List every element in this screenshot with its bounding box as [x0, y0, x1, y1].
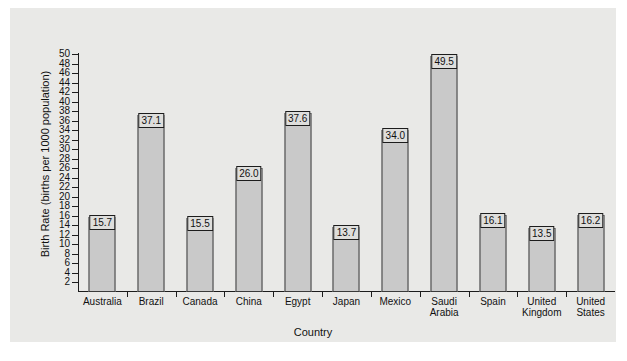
x-tick-label: China — [224, 296, 273, 307]
y-tick-label: 26 — [50, 163, 70, 173]
x-tick-label: Brazil — [127, 296, 176, 307]
x-tick-mark — [322, 292, 323, 297]
y-tick-label: 18 — [50, 201, 70, 211]
y-tick-label: 20 — [50, 192, 70, 202]
x-tick-mark — [176, 292, 177, 297]
y-tick-label: 30 — [50, 144, 70, 154]
x-tick-label: UnitedStates — [566, 296, 615, 318]
y-tick-label: 10 — [50, 239, 70, 249]
bar-value-label: 16.1 — [480, 213, 505, 228]
bar[interactable] — [138, 115, 165, 292]
bar[interactable] — [382, 130, 409, 292]
bar-value-label: 16.2 — [578, 213, 603, 228]
bar[interactable] — [284, 113, 311, 292]
bar-slot: 13.7 — [322, 53, 371, 292]
y-axis-tick-labels: 2468101214161820222426283032343638404244… — [48, 8, 70, 342]
x-tick-mark — [420, 292, 421, 297]
bar-slot: 49.5 — [420, 53, 469, 292]
x-tick-mark — [566, 292, 567, 297]
x-tick-label: UnitedKingdom — [517, 296, 566, 318]
x-tick-label: Spain — [469, 296, 518, 307]
bar-slot: 13.5 — [517, 53, 566, 292]
y-tick-label: 16 — [50, 211, 70, 221]
y-tick-label: 4 — [50, 268, 70, 278]
y-tick-label: 22 — [50, 182, 70, 192]
y-tick-label: 2 — [50, 277, 70, 287]
y-tick-label: 28 — [50, 154, 70, 164]
bar-slot: 15.5 — [176, 53, 225, 292]
y-tick-label: 32 — [50, 135, 70, 145]
bar-slot: 37.1 — [127, 53, 176, 292]
y-tick-label: 6 — [50, 258, 70, 268]
x-tick-mark — [517, 292, 518, 297]
bar-value-label: 37.1 — [138, 113, 163, 128]
x-tick-mark — [469, 292, 470, 297]
bar-slot: 26.0 — [224, 53, 273, 292]
y-tick-label: 24 — [50, 173, 70, 183]
y-tick-label: 42 — [50, 87, 70, 97]
x-tick-mark — [273, 292, 274, 297]
bar[interactable] — [235, 168, 262, 292]
y-tick-label: 14 — [50, 220, 70, 230]
bar-value-label: 49.5 — [431, 54, 456, 69]
x-tick-label: Australia — [78, 296, 127, 307]
bar-slot: 34.0 — [371, 53, 420, 292]
chart-figure: Birth Rate (births per 1000 population) … — [0, 0, 627, 361]
x-tick-label: SaudiArabia — [420, 296, 469, 318]
y-tick-label: 48 — [50, 59, 70, 69]
y-tick-label: 12 — [50, 230, 70, 240]
plot-area: 15.737.115.526.037.613.734.049.516.113.5… — [78, 53, 615, 292]
bar-slot: 37.6 — [273, 53, 322, 292]
bar-slot: 16.1 — [469, 53, 518, 292]
bar-slot: 16.2 — [566, 53, 615, 292]
y-tick-label: 34 — [50, 125, 70, 135]
bar-value-label: 13.5 — [529, 226, 554, 241]
y-tick-label: 40 — [50, 97, 70, 107]
y-tick-label: 38 — [50, 106, 70, 116]
bar-value-label: 15.5 — [187, 216, 212, 231]
bar-value-label: 13.7 — [334, 225, 359, 240]
x-tick-label: Mexico — [371, 296, 420, 307]
bar-slot: 15.7 — [78, 53, 127, 292]
x-tick-label: Egypt — [273, 296, 322, 307]
bar-value-label: 34.0 — [383, 128, 408, 143]
x-tick-label: Canada — [176, 296, 225, 307]
y-tick-label: 36 — [50, 116, 70, 126]
y-tick-label: 46 — [50, 68, 70, 78]
bar-value-label: 37.6 — [285, 111, 310, 126]
bar-value-label: 26.0 — [236, 166, 261, 181]
x-tick-label: Japan — [322, 296, 371, 307]
y-tick-label: 44 — [50, 78, 70, 88]
y-tick-label: 8 — [50, 249, 70, 259]
y-tick-label: 50 — [50, 49, 70, 59]
x-axis-title: Country — [10, 326, 616, 338]
x-tick-mark — [127, 292, 128, 297]
bar-value-label: 15.7 — [90, 215, 115, 230]
bar[interactable] — [431, 56, 458, 292]
chart-panel: Birth Rate (births per 1000 population) … — [10, 8, 616, 342]
x-tick-mark — [224, 292, 225, 297]
x-tick-mark — [371, 292, 372, 297]
